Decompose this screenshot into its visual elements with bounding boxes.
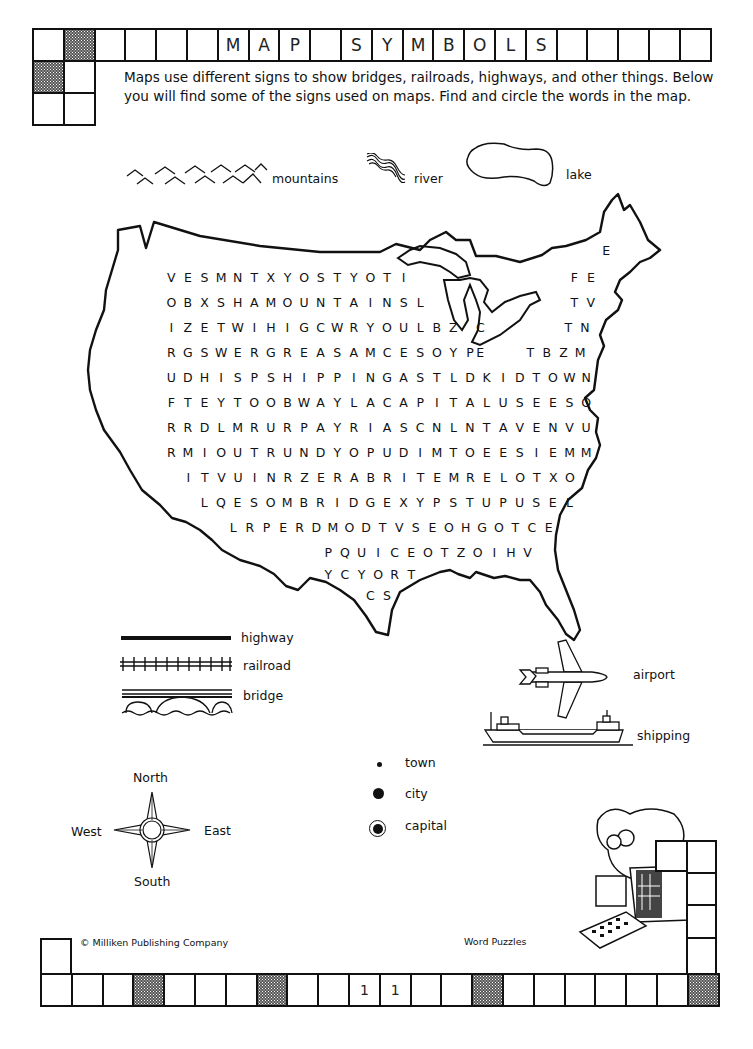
word-search-letter[interactable]: E: [545, 445, 562, 460]
word-search-letter[interactable]: E: [545, 395, 562, 410]
word-search-letter[interactable]: V: [511, 420, 528, 435]
word-search-letter[interactable]: O: [246, 395, 263, 410]
word-search-letter[interactable]: B: [429, 320, 446, 335]
word-search-letter[interactable]: U: [229, 445, 246, 460]
word-search-letter[interactable]: I: [396, 470, 413, 485]
word-search-letter[interactable]: O: [545, 370, 562, 385]
word-search-letter[interactable]: P: [320, 545, 337, 560]
word-search-letter[interactable]: Y: [412, 495, 429, 510]
word-search-letter[interactable]: L: [213, 420, 230, 435]
word-search-letter[interactable]: A: [495, 420, 512, 435]
word-search-letter[interactable]: B: [539, 345, 556, 360]
word-search-letter[interactable]: O: [362, 270, 379, 285]
word-search-letter[interactable]: M: [429, 445, 446, 460]
word-search-letter[interactable]: Y: [445, 345, 462, 360]
word-search-letter[interactable]: Z: [445, 320, 462, 335]
word-search-letter[interactable]: O: [379, 320, 396, 335]
word-search-letter[interactable]: O: [296, 270, 313, 285]
word-search-letter[interactable]: S: [229, 370, 246, 385]
word-search-letter[interactable]: R: [346, 420, 363, 435]
word-search-letter[interactable]: T: [213, 320, 230, 335]
word-search-letter[interactable]: Y: [329, 395, 346, 410]
word-search-letter[interactable]: U: [163, 370, 180, 385]
word-search-letter[interactable]: O: [578, 395, 595, 410]
word-search-letter[interactable]: O: [462, 445, 479, 460]
word-search-letter[interactable]: T: [379, 270, 396, 285]
word-search-letter[interactable]: E: [180, 270, 197, 285]
word-search-letter[interactable]: N: [296, 445, 313, 460]
word-search-letter[interactable]: T: [329, 270, 346, 285]
word-search-row[interactable]: TN: [560, 320, 593, 335]
word-search-letter[interactable]: L: [412, 320, 429, 335]
word-search-letter[interactable]: O: [491, 520, 508, 535]
word-search-letter[interactable]: W: [229, 320, 246, 335]
word-search-letter[interactable]: A: [246, 295, 263, 310]
word-search-letter[interactable]: L: [346, 395, 363, 410]
word-search-letter[interactable]: P: [246, 370, 263, 385]
word-search-letter[interactable]: O: [346, 445, 363, 460]
word-search-row[interactable]: RRDLMRURPAYRIASCNLNTAVENVU: [163, 420, 594, 435]
word-search-letter[interactable]: I: [329, 495, 346, 510]
word-search-letter[interactable]: B: [279, 395, 296, 410]
word-search-letter[interactable]: E: [229, 345, 246, 360]
word-search-letter[interactable]: S: [395, 420, 412, 435]
word-search-letter[interactable]: Q: [337, 545, 354, 560]
word-search-letter[interactable]: H: [503, 545, 520, 560]
word-search-letter[interactable]: O: [163, 295, 180, 310]
word-search-letter[interactable]: R: [312, 495, 329, 510]
word-search-letter[interactable]: S: [511, 395, 528, 410]
word-search-letter[interactable]: I: [246, 470, 263, 485]
word-search-letter[interactable]: Z: [453, 545, 470, 560]
word-search-letter[interactable]: P: [428, 495, 445, 510]
word-search-letter[interactable]: C: [312, 320, 329, 335]
word-search-letter[interactable]: X: [395, 495, 412, 510]
word-search-letter[interactable]: I: [279, 320, 296, 335]
word-search-letter[interactable]: E: [598, 243, 615, 258]
word-search-letter[interactable]: O: [263, 395, 280, 410]
word-search-letter[interactable]: H: [196, 370, 213, 385]
word-search-row[interactable]: LQESOMBRIDGEXYPSTUPUSEL: [196, 495, 578, 510]
word-search-letter[interactable]: G: [474, 520, 491, 535]
word-search-letter[interactable]: R: [242, 520, 259, 535]
word-search-letter[interactable]: D: [511, 370, 528, 385]
word-search-letter[interactable]: L: [478, 395, 495, 410]
word-search-letter[interactable]: T: [445, 395, 462, 410]
word-search-letter[interactable]: Q: [213, 495, 230, 510]
word-search-letter[interactable]: I: [395, 270, 412, 285]
word-search-letter[interactable]: E: [379, 495, 396, 510]
word-search-row[interactable]: E: [472, 345, 489, 360]
word-search-letter[interactable]: V: [519, 545, 536, 560]
word-search-letter[interactable]: D: [395, 445, 412, 460]
word-search-row[interactable]: RGSWERGREASAMCESOYP: [163, 345, 478, 360]
word-search-letter[interactable]: T: [329, 295, 346, 310]
word-search-letter[interactable]: H: [229, 295, 246, 310]
word-search-letter[interactable]: U: [353, 545, 370, 560]
word-search-letter[interactable]: A: [462, 395, 479, 410]
word-search-letter[interactable]: T: [566, 295, 583, 310]
word-search-letter[interactable]: D: [462, 370, 479, 385]
word-search-letter[interactable]: A: [395, 370, 412, 385]
word-search-letter[interactable]: O: [279, 295, 296, 310]
word-search-letter[interactable]: T: [246, 270, 263, 285]
word-search-letter[interactable]: E: [495, 445, 512, 460]
word-search-letter[interactable]: L: [445, 420, 462, 435]
word-search-letter[interactable]: C: [412, 420, 429, 435]
word-search-letter[interactable]: S: [196, 270, 213, 285]
word-search-letter[interactable]: R: [163, 345, 180, 360]
word-search-letter[interactable]: I: [362, 420, 379, 435]
word-search-letter[interactable]: O: [429, 345, 446, 360]
word-search-row[interactable]: UDHISPSHIPPINGASTLDKIDTOWN: [163, 370, 594, 385]
word-search-letter[interactable]: L: [561, 495, 578, 510]
word-search-letter[interactable]: P: [362, 445, 379, 460]
word-search-letter[interactable]: T: [229, 395, 246, 410]
word-search-letter[interactable]: R: [379, 470, 396, 485]
word-search-letter[interactable]: H: [279, 370, 296, 385]
word-search-letter[interactable]: P: [312, 370, 329, 385]
word-search-letter[interactable]: C: [386, 545, 403, 560]
word-search-letter[interactable]: Z: [296, 470, 313, 485]
word-search-row[interactable]: TV: [566, 295, 599, 310]
word-search-letter[interactable]: R: [163, 445, 180, 460]
word-search-letter[interactable]: A: [395, 395, 412, 410]
word-search-letter[interactable]: U: [230, 470, 247, 485]
word-search-letter[interactable]: D: [345, 495, 362, 510]
